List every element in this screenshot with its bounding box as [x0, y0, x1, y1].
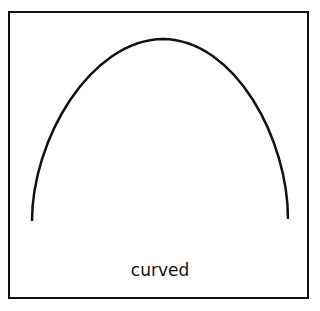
curve-label: curved [0, 260, 320, 280]
